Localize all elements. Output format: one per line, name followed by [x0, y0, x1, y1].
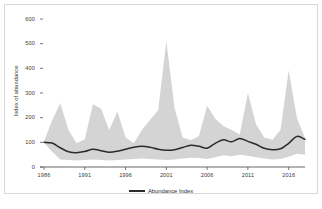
y-tick-label: 500: [13, 40, 35, 46]
x-tick-label: 2016: [276, 172, 302, 178]
y-tick-label: 200: [13, 114, 35, 120]
legend-line-swatch: [129, 190, 145, 191]
confidence-band: [44, 41, 305, 160]
chart-figure: Index of abundance 0100200300400500600 1…: [0, 0, 322, 209]
x-tick-label: 2001: [153, 172, 179, 178]
y-tick-label: 100: [13, 139, 35, 145]
x-tick-label: 2006: [194, 172, 220, 178]
x-tick-label: 1996: [113, 172, 139, 178]
y-tick-label: 300: [13, 90, 35, 96]
x-tick-label: 1986: [31, 172, 57, 178]
y-tick-label: 600: [13, 16, 35, 22]
y-tick-label: 0: [13, 164, 35, 170]
x-tick-label: 2011: [235, 172, 261, 178]
chart-legend: Abundance Index: [0, 188, 322, 194]
x-tick-label: 1991: [72, 172, 98, 178]
legend-label-abundance-index: Abundance Index: [148, 188, 193, 194]
y-tick-label: 400: [13, 65, 35, 71]
